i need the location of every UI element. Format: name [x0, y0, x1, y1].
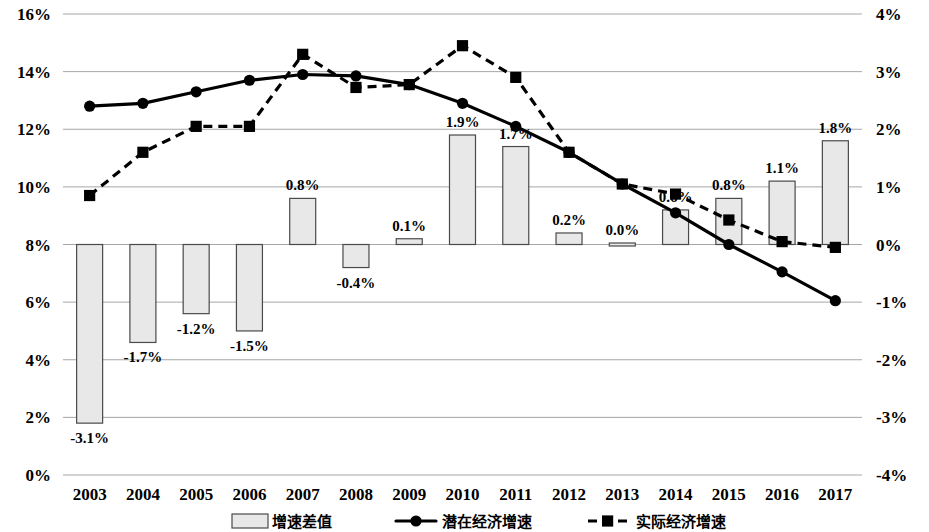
actual-growth-marker-2005: [191, 121, 202, 132]
actual-growth-marker-2009: [404, 79, 415, 90]
bar-label-2015: 0.8%: [712, 177, 746, 193]
bar-2003: [77, 245, 103, 424]
left-axis-tick-0%: 0%: [26, 466, 52, 485]
bar-2007: [290, 198, 316, 244]
bar-2009: [396, 239, 422, 245]
legend-item-1[interactable]: 潜在经济增速: [396, 513, 532, 531]
left-axis-ticks: 0%2%4%6%8%10%12%14%16%: [17, 5, 51, 485]
bar-label-2003: -3.1%: [70, 430, 109, 446]
bar-label-2010: 1.9%: [446, 114, 480, 130]
x-axis-tick-2015: 2015: [712, 485, 746, 504]
left-axis-tick-4%: 4%: [26, 351, 52, 370]
left-axis-tick-2%: 2%: [26, 408, 52, 427]
bar-label-2009: 0.1%: [392, 218, 426, 234]
x-axis-tick-2011: 2011: [499, 485, 532, 504]
legend-bar-swatch-icon: [232, 514, 268, 528]
right-axis-tick--1%: -1%: [876, 293, 907, 312]
right-axis-tick--2%: -2%: [876, 351, 907, 370]
x-axis-tick-2010: 2010: [446, 485, 480, 504]
bar-2005: [183, 245, 209, 314]
right-axis-tick-1%: 1%: [876, 178, 902, 197]
actual-growth-marker-2006: [244, 121, 255, 132]
left-axis-tick-16%: 16%: [17, 5, 51, 24]
x-axis-tick-2013: 2013: [605, 485, 639, 504]
bar-label-2004: -1.7%: [124, 349, 163, 365]
actual-growth-marker-2016: [777, 236, 788, 247]
bar-2010: [450, 135, 476, 244]
potential-growth-marker-2016: [777, 266, 788, 277]
x-axis-tick-2017: 2017: [818, 485, 853, 504]
bar-2006: [236, 245, 262, 331]
actual-growth-marker-2007: [297, 49, 308, 60]
bar-2013: [609, 243, 635, 246]
x-axis-tick-2007: 2007: [286, 485, 321, 504]
bar-label-2013: 0.0%: [605, 222, 639, 238]
potential-growth-marker-2010: [457, 98, 468, 109]
economic-growth-gap-chart: -3.1%-1.7%-1.2%-1.5%0.8%-0.4%0.1%1.9%1.7…: [0, 0, 929, 532]
actual-growth-marker-2003: [84, 190, 95, 201]
legend-square-marker-icon: [602, 515, 613, 526]
bar-label-2008: -0.4%: [337, 275, 376, 291]
right-axis-ticks: -4%-3%-2%-1%0%1%2%3%4%: [876, 5, 907, 485]
x-axis-tick-2003: 2003: [73, 485, 107, 504]
bar-label-2017: 1.8%: [818, 120, 852, 136]
left-axis-tick-6%: 6%: [26, 293, 52, 312]
bar-label-2012: 0.2%: [552, 212, 586, 228]
actual-growth-marker-2010: [457, 40, 468, 51]
right-axis-tick-0%: 0%: [876, 236, 902, 255]
right-axis-tick--4%: -4%: [876, 466, 907, 485]
right-axis-tick-4%: 4%: [876, 5, 902, 24]
right-axis-tick-3%: 3%: [876, 63, 902, 82]
right-axis-tick-2%: 2%: [876, 120, 902, 139]
actual-growth-marker-2004: [137, 147, 148, 158]
legend-label-0: 增速差值: [272, 513, 332, 531]
x-axis-tick-2005: 2005: [179, 485, 213, 504]
left-axis-tick-10%: 10%: [17, 178, 51, 197]
potential-growth-marker-2007: [297, 69, 308, 80]
bar-label-2005: -1.2%: [177, 321, 216, 337]
x-axis-tick-2009: 2009: [392, 485, 426, 504]
x-axis-tick-2008: 2008: [339, 485, 373, 504]
chart-canvas: -3.1%-1.7%-1.2%-1.5%0.8%-0.4%0.1%1.9%1.7…: [0, 0, 929, 532]
legend-label-2: 实际经济增速: [636, 513, 726, 531]
bar-2008: [343, 245, 369, 268]
legend-label-1: 潜在经济增速: [442, 513, 532, 531]
bar-label-2007: 0.8%: [286, 177, 320, 193]
x-axis-tick-2014: 2014: [659, 485, 694, 504]
potential-growth-marker-2014: [670, 207, 681, 218]
right-axis-tick--3%: -3%: [876, 408, 907, 427]
potential-growth-marker-2005: [191, 86, 202, 97]
x-axis-ticks: 2003200420052006200720082009201020112012…: [73, 485, 853, 504]
legend-item-0[interactable]: 增速差值: [232, 513, 332, 531]
potential-growth-marker-2017: [830, 295, 841, 306]
actual-growth-marker-2012: [563, 147, 574, 158]
bar-label-2014: 0.6%: [659, 189, 693, 205]
potential-growth-marker-2006: [244, 75, 255, 86]
actual-growth-marker-2015: [723, 214, 734, 225]
actual-growth-marker-2008: [350, 82, 361, 93]
potential-growth-marker-2003: [84, 101, 95, 112]
bar-2017: [822, 141, 848, 245]
left-axis-tick-8%: 8%: [26, 236, 52, 255]
x-axis-tick-2004: 2004: [126, 485, 161, 504]
actual-growth-marker-2017: [830, 242, 841, 253]
bar-label-2011: 1.7%: [499, 126, 533, 142]
actual-growth-marker-2013: [617, 178, 628, 189]
left-axis-tick-14%: 14%: [17, 63, 51, 82]
x-axis-tick-2006: 2006: [232, 485, 266, 504]
chart-legend: 增速差值潜在经济增速实际经济增速: [232, 513, 726, 531]
bar-2004: [130, 245, 156, 343]
potential-growth-marker-2008: [350, 70, 361, 81]
x-axis-tick-2012: 2012: [552, 485, 586, 504]
left-axis-tick-12%: 12%: [17, 120, 51, 139]
bar-2016: [769, 181, 795, 244]
bar-label-2016: 1.1%: [765, 160, 799, 176]
x-axis-tick-2016: 2016: [765, 485, 799, 504]
potential-growth-marker-2015: [723, 239, 734, 250]
potential-growth-marker-2004: [137, 98, 148, 109]
legend-item-2[interactable]: 实际经济增速: [588, 513, 726, 531]
actual-growth-marker-2011: [510, 72, 521, 83]
bar-label-2006: -1.5%: [230, 338, 269, 354]
bar-2011: [503, 147, 529, 245]
legend-circle-marker-icon: [410, 515, 421, 526]
